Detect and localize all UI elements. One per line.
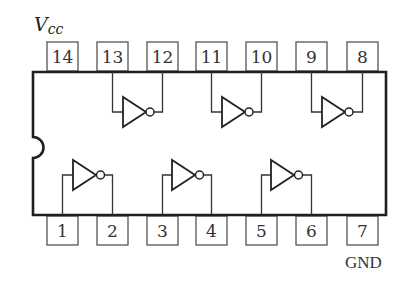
svg-text:3: 3 (157, 221, 168, 241)
not-gate-triangle-icon (322, 97, 345, 127)
pin-3: 3 (147, 216, 178, 245)
inverter-gate-9-8 (312, 72, 363, 127)
svg-text:7: 7 (357, 221, 368, 241)
svg-text:1: 1 (57, 221, 68, 241)
hex-inverter-diagram: Vcc 14 13 12 11 10 9 8 (0, 0, 413, 284)
not-gate-triangle-icon (172, 160, 195, 190)
svg-text:2: 2 (107, 221, 118, 241)
pin-6: 6 (296, 216, 327, 245)
inverter-gate-11-10 (212, 72, 262, 127)
inversion-bubble-icon (345, 108, 353, 116)
pin-8: 8 (347, 42, 378, 71)
svg-text:6: 6 (306, 221, 317, 241)
svg-text:9: 9 (306, 47, 317, 67)
svg-text:11: 11 (201, 47, 223, 67)
svg-text:14: 14 (52, 47, 74, 67)
inverter-gate-1-2 (63, 160, 113, 215)
pin-12: 12 (147, 42, 178, 71)
pin-7: 7 (347, 216, 378, 245)
not-gate-triangle-icon (73, 160, 96, 190)
pin-4: 4 (196, 216, 227, 245)
not-gate-triangle-icon (123, 97, 146, 127)
not-gate-triangle-icon (271, 160, 294, 190)
inversion-bubble-icon (146, 108, 154, 116)
svg-text:12: 12 (152, 47, 174, 67)
pin-9: 9 (296, 42, 327, 71)
inversion-bubble-icon (196, 171, 204, 179)
gnd-label: GND (345, 253, 382, 272)
svg-text:4: 4 (206, 221, 217, 241)
pin-13: 13 (97, 42, 128, 71)
not-gate-triangle-icon (222, 97, 245, 127)
pin-5: 5 (246, 216, 277, 245)
svg-text:8: 8 (357, 47, 368, 67)
inversion-bubble-icon (295, 171, 303, 179)
bottom-pin-row: 1 2 3 4 5 6 7 (47, 216, 378, 245)
pin-10: 10 (246, 42, 277, 71)
svg-text:5: 5 (256, 221, 267, 241)
svg-text:13: 13 (102, 47, 124, 67)
inverter-gate-3-4 (163, 160, 212, 215)
pin-1: 1 (47, 216, 78, 245)
pin-14: 14 (47, 42, 78, 71)
inverter-gate-5-6 (262, 160, 312, 215)
top-pin-row: 14 13 12 11 10 9 8 (47, 42, 378, 71)
svg-text:10: 10 (251, 47, 273, 67)
inverter-gate-13-12 (113, 72, 163, 127)
pin-11: 11 (196, 42, 227, 71)
inversion-bubble-icon (97, 171, 105, 179)
ic-body-outline (33, 72, 386, 215)
pin-2: 2 (97, 216, 128, 245)
inversion-bubble-icon (245, 108, 253, 116)
vcc-label: Vcc (34, 13, 64, 37)
